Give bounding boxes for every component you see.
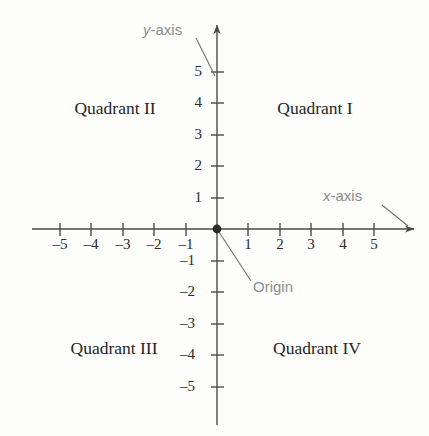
x-axis-leader-line (382, 205, 408, 226)
x-tick-label-2: 2 (266, 237, 294, 252)
quadrant-4-label: Quadrant IV (253, 340, 381, 358)
y-tick-label--2: –2 (165, 284, 195, 299)
quadrant-3-label: Quadrant III (49, 340, 179, 358)
x-tick-label--3: –3 (109, 237, 137, 252)
origin-point (213, 225, 222, 234)
coordinate-plane-figure: –5 –4 –3 –2 –1 1 2 3 4 5 5 4 3 2 1 –1 –2… (0, 0, 429, 436)
x-axis-callout-label: x-axis (323, 188, 362, 203)
y-tick-label-3: 3 (172, 127, 202, 142)
x-tick-label-1: 1 (234, 237, 262, 252)
y-tick-label--1: –1 (165, 253, 195, 268)
x-tick-label--2: –2 (140, 237, 168, 252)
y-tick-label--3: –3 (165, 316, 195, 331)
y-axis-callout-variable: y (143, 21, 151, 38)
origin-callout-label: Origin (253, 279, 293, 294)
y-axis-callout-label: y-axis (143, 22, 182, 37)
y-tick-label-5: 5 (172, 64, 202, 79)
y-tick-label-4: 4 (172, 95, 202, 110)
y-tick-label-1: 1 (172, 190, 202, 205)
x-tick-label--1: –1 (172, 237, 200, 252)
x-axis-callout-variable: x (323, 187, 331, 204)
x-tick-label-4: 4 (329, 237, 357, 252)
quadrant-2-label: Quadrant II (55, 100, 175, 118)
axes-drawing (0, 0, 429, 436)
x-axis-callout-suffix: -axis (331, 187, 363, 204)
y-axis-callout-suffix: -axis (151, 21, 183, 38)
x-tick-label--5: –5 (46, 237, 74, 252)
y-tick-label--5: –5 (165, 379, 195, 394)
quadrant-1-label: Quadrant I (258, 100, 372, 118)
y-tick-label-2: 2 (172, 158, 202, 173)
x-tick-label-5: 5 (360, 237, 388, 252)
x-tick-label-3: 3 (297, 237, 325, 252)
x-tick-label--4: –4 (77, 237, 105, 252)
